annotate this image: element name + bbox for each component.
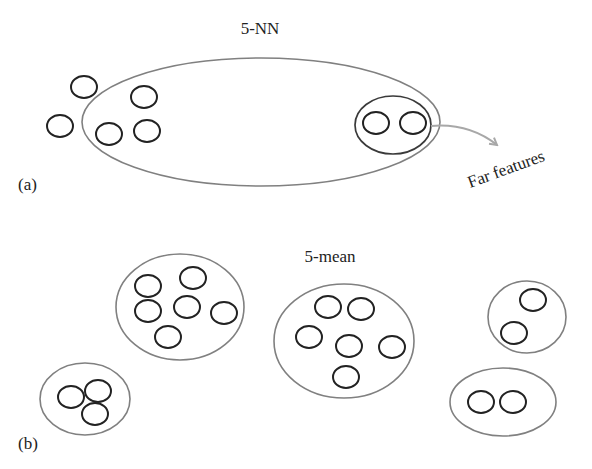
panel-a-title: 5-NN [241,19,280,38]
feature-point [71,76,97,98]
panel-b-title: 5-mean [305,247,356,266]
feature-point [96,123,122,145]
feature-point [520,289,546,311]
feature-point [58,386,84,408]
feature-point [135,275,161,297]
feature-point [134,120,160,142]
cluster-4 [450,368,556,436]
panel-b-label: (b) [18,434,38,453]
panel-a-label: (a) [18,175,37,194]
feature-point [500,391,526,413]
feature-point [47,115,73,137]
feature-point [85,380,111,402]
cluster-ellipse [488,281,566,353]
cluster-2 [274,284,414,398]
cluster-ellipse [274,284,414,398]
feature-point [296,326,322,348]
feature-point [135,300,161,322]
cluster-ellipse [450,368,556,436]
feature-point [348,298,374,320]
far-features-ellipse [355,96,431,154]
points-outside [47,76,97,137]
panel-a: 5-NN Far features (a) [18,19,547,194]
feature-point [155,326,181,348]
cluster-ellipse [40,363,130,435]
feature-point [131,86,157,108]
feature-point [82,403,108,425]
feature-point [363,112,389,134]
points-far [363,112,426,134]
feature-point [211,302,237,324]
feature-point [468,391,494,413]
cluster-1 [116,254,244,360]
feature-point [174,296,200,318]
feature-point [333,366,359,388]
diagram-canvas: 5-NN Far features (a) 5-mean (b) [0,0,592,469]
neighborhood-ellipse [82,58,440,186]
feature-point [379,336,405,358]
far-features-label: Far features [465,146,547,191]
feature-point [315,296,341,318]
feature-point [336,335,362,357]
far-features-arrow [431,126,497,145]
panel-b: 5-mean (b) [18,247,566,453]
feature-point [180,267,206,289]
feature-point [400,112,426,134]
cluster-5 [40,363,130,435]
points-inside [96,86,160,145]
clusters [40,254,566,436]
cluster-3 [488,281,566,353]
feature-point [501,322,527,344]
